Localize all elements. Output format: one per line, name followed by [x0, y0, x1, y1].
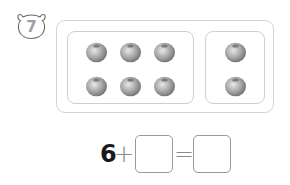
sum-answer-box[interactable] [193, 135, 231, 173]
blueberry-icon [119, 75, 142, 97]
blueberry-icon [224, 75, 247, 97]
blueberry-icon [153, 41, 176, 63]
second-addend-answer-box[interactable] [135, 135, 173, 173]
blueberry-icon [224, 41, 247, 63]
problem-number: 7 [16, 18, 47, 36]
blueberry-icon [119, 41, 142, 63]
blueberry-icon [85, 75, 108, 97]
plus-sign: + [114, 139, 134, 169]
equals-sign: = [174, 139, 194, 169]
blueberry-icon [85, 41, 108, 63]
blueberry-icon [153, 75, 176, 97]
problem-number-badge: 7 [16, 11, 47, 40]
